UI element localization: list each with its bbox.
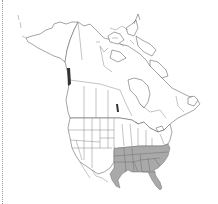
north-america-map (0, 0, 218, 204)
aleutian-islands (18, 15, 26, 38)
canada-region (65, 22, 200, 132)
distribution-map (0, 0, 218, 204)
shaded-range-southeast (110, 144, 170, 190)
